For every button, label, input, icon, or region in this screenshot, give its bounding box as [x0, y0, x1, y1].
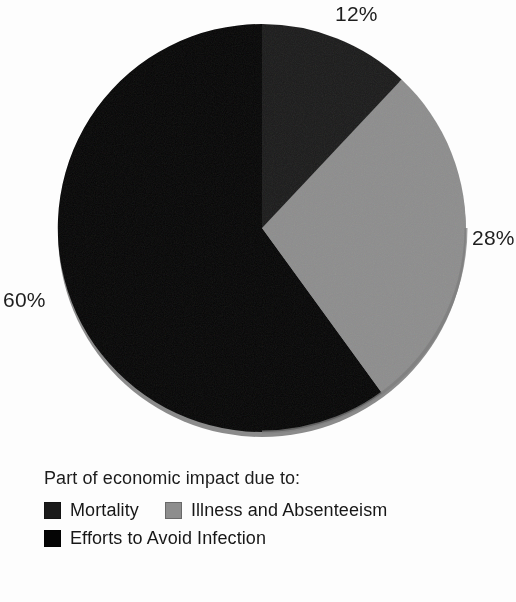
legend-label-efforts: Efforts to Avoid Infection [70, 527, 266, 549]
legend-item-illness: Illness and Absenteeism [165, 499, 387, 521]
legend-row-1: Mortality Illness and Absenteeism [44, 496, 504, 524]
data-label-mortality: 12% [335, 2, 378, 26]
legend-swatch-illness-icon [165, 502, 182, 519]
chart-page: 12% 28% 60% Part of economic impact due … [0, 0, 516, 602]
legend-label-mortality: Mortality [70, 499, 139, 521]
pie-grain-overlay [0, 0, 516, 452]
pie-chart-svg [0, 0, 516, 452]
legend-item-mortality: Mortality [44, 499, 139, 521]
legend-row-2: Efforts to Avoid Infection [44, 524, 504, 552]
data-label-efforts: 60% [3, 288, 46, 312]
pie-chart: 12% 28% 60% [0, 0, 516, 452]
legend-label-illness: Illness and Absenteeism [191, 499, 387, 521]
data-label-illness: 28% [472, 226, 515, 250]
legend-title: Part of economic impact due to: [44, 466, 504, 490]
legend-swatch-efforts-icon [44, 530, 61, 547]
legend-swatch-mortality-icon [44, 502, 61, 519]
chart-legend: Part of economic impact due to: Mortalit… [44, 466, 504, 552]
legend-item-efforts: Efforts to Avoid Infection [44, 527, 266, 549]
